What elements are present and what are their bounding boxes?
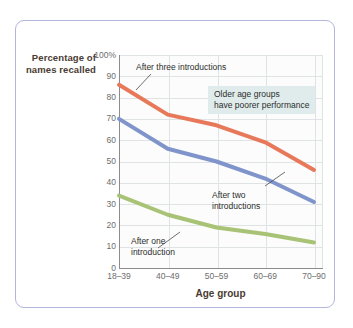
y-tick-label: 90 <box>86 72 116 81</box>
y-tick-label: 80 <box>86 93 116 102</box>
gridline-vertical <box>322 55 323 268</box>
x-axis-ticks: 18–3940–4950–5960–6970–90 <box>119 271 322 285</box>
y-tick-label: 100% <box>86 51 116 60</box>
y-tick-label: 50 <box>86 157 116 166</box>
annotation-after-two-introductions: After two introductions <box>212 190 260 211</box>
x-tick-label: 18–39 <box>107 271 131 281</box>
annotation-after-three-introductions: After three introductions <box>136 62 226 73</box>
y-tick-label: 30 <box>86 200 116 209</box>
x-tick-label: 60–69 <box>253 271 277 281</box>
x-tick-label: 70–90 <box>302 271 326 281</box>
x-axis-title: Age group <box>119 288 322 299</box>
x-tick-label: 50–59 <box>205 271 229 281</box>
x-axis-line <box>119 268 323 269</box>
y-axis-ticks: 0102030405060708090100% <box>84 55 116 268</box>
y-tick-label: 60 <box>86 136 116 145</box>
y-tick-label: 70 <box>86 114 116 123</box>
y-tick-label: 40 <box>86 178 116 187</box>
y-tick-label: 20 <box>86 221 116 230</box>
y-tick-label: 10 <box>86 242 116 251</box>
x-tick-label: 40–49 <box>156 271 180 281</box>
annotation-after-one-introduction: After one introduction <box>131 236 175 257</box>
annotation-callout-older-age-groups: Older age groups have poorer performance <box>208 86 315 114</box>
